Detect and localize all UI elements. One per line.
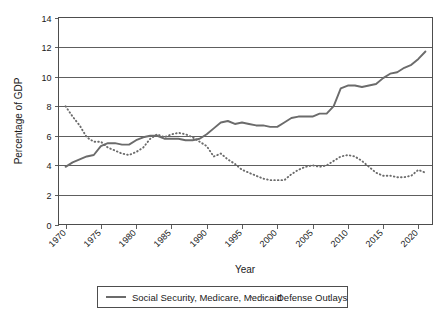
y-tick-label: 12	[41, 43, 51, 53]
x-tick-label: 2015	[364, 228, 385, 249]
y-tick-label: 6	[46, 132, 51, 142]
x-tick-label: 1970	[47, 228, 68, 249]
y-tick-label: 8	[46, 102, 51, 112]
x-tick-label: 2010	[329, 228, 350, 249]
series-line-social-security-medicare-medicaid	[66, 52, 426, 167]
x-tick-label: 2005	[294, 228, 315, 249]
x-tick-label: 1995	[223, 228, 244, 249]
y-tick-label: 0	[46, 221, 51, 231]
y-axis-tick-marks	[55, 19, 59, 226]
x-axis-title: Year	[235, 264, 256, 275]
x-tick-label: 1985	[152, 228, 173, 249]
chart-container: 02468101214 1970197519801985199019952000…	[0, 0, 444, 319]
y-tick-label: 2	[46, 191, 51, 201]
plot-area-border	[59, 18, 433, 225]
percentage-of-gdp-line-chart: 02468101214 1970197519801985199019952000…	[0, 0, 444, 319]
legend-label-defense-outlays: Defense Outlays	[277, 292, 347, 303]
x-axis-tick-labels: 1970197519801985199019952000200520102015…	[47, 228, 420, 249]
x-tick-label: 2000	[258, 228, 279, 249]
x-tick-label: 1980	[117, 228, 138, 249]
y-axis-title: Percentage of GDP	[13, 77, 24, 164]
x-tick-label: 2020	[399, 228, 420, 249]
y-tick-label: 4	[46, 161, 51, 171]
x-axis-tick-marks	[67, 225, 419, 229]
y-tick-label: 14	[41, 14, 51, 24]
legend: Social Security, Medicare, Medicaid Defe…	[98, 287, 348, 308]
x-tick-label: 1975	[82, 228, 103, 249]
y-axis-tick-labels: 02468101214	[41, 14, 51, 231]
y-tick-label: 10	[41, 73, 51, 83]
x-tick-label: 1990	[188, 228, 209, 249]
